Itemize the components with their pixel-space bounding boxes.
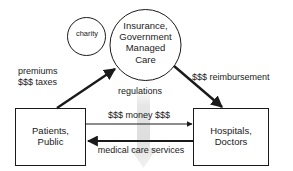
patients-box xyxy=(16,109,86,166)
premiums-label: premiums $$$ taxes xyxy=(18,66,88,88)
regulations-label: regulations xyxy=(104,86,176,97)
insurer-circle xyxy=(110,10,181,81)
reimbursement-label: $$$ reimbursement xyxy=(192,72,290,83)
background-watermark-arrow xyxy=(130,88,157,168)
money-label: $$$ money $$$ xyxy=(98,110,180,121)
services-label: medical care services xyxy=(92,145,190,156)
hospitals-box xyxy=(194,109,269,166)
charity-circle xyxy=(68,18,106,56)
diagram-canvas: charity Insurance, Government Managed Ca… xyxy=(0,0,293,171)
